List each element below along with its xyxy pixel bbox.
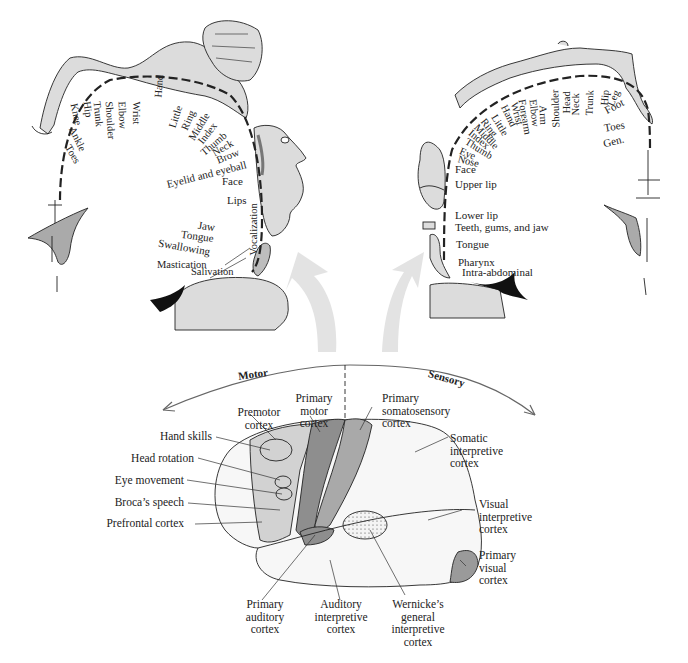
label-eye-movement: Eye movement — [80, 474, 184, 487]
sensory-label-lower-lip: Lower lip — [455, 209, 498, 221]
label-auditory-interpretive-cortex: Auditory interpretive cortex — [298, 598, 384, 636]
label-brocas-speech: Broca’s speech — [80, 496, 184, 509]
motor-label-vocalization: Vocalization — [248, 203, 259, 255]
label-prefrontal-cortex: Prefrontal cortex — [60, 517, 184, 530]
sensory-label-trunk: Trunk — [584, 90, 596, 116]
label-primary-somatosensory-cortex: Primary somatosensory cortex — [382, 392, 502, 430]
sensory-label-tongue: Tongue — [456, 238, 489, 250]
sensory-label-intra-abdominal: Intra-abdominal — [462, 266, 533, 278]
label-somatic-interpretive-cortex: Somatic interpretive cortex — [450, 432, 560, 470]
label-visual-interpretive-cortex: Visual interpretive cortex — [479, 498, 589, 536]
label-primary-auditory-cortex: Primary auditory cortex — [230, 598, 300, 636]
sensory-label-hip: Hip — [599, 89, 612, 106]
label-primary-visual-cortex: Primary visual cortex — [479, 549, 559, 587]
motor-label-face: Face — [222, 175, 243, 187]
sensory-label-head: Head — [561, 91, 572, 113]
sensory-label-face: Face — [455, 163, 476, 175]
curved-arrow-left — [286, 252, 336, 352]
label-head-rotation: Head rotation — [100, 452, 194, 465]
motor-label-lips: Lips — [227, 194, 247, 206]
label-wernickes-cortex: Wernicke’s general interpretive cortex — [375, 598, 461, 648]
motor-label-hand: Hand — [153, 74, 166, 97]
motor-homunculus-figure — [28, 21, 306, 330]
label-primary-motor-cortex: Primary motor cortex — [282, 392, 346, 430]
motor-label-salivation: Salivation — [191, 266, 234, 278]
sensory-label-shoulder: Shoulder — [549, 89, 561, 127]
curved-arrow-right — [382, 252, 424, 352]
motor-label-wrist: Wrist — [131, 102, 142, 125]
sensory-label-teeth-gums-jaw: Teeth, gums, and jaw — [455, 221, 549, 233]
sensory-label-upper-lip: Upper lip — [455, 178, 497, 190]
motor-label-elbow: Elbow — [117, 101, 129, 129]
label-hand-skills: Hand skills — [120, 430, 212, 443]
